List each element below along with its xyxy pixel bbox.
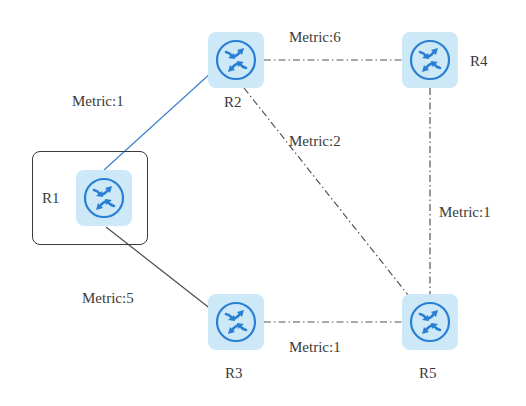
node-label-r1: R1	[42, 191, 60, 206]
metric-label-r1-r3: Metric:5	[82, 291, 134, 306]
node-label-r5: R5	[419, 366, 437, 381]
metric-label-r2-r4: Metric:6	[289, 30, 341, 45]
metric-label-r4-r5: Metric:1	[439, 205, 491, 220]
link-r2-r5	[244, 88, 408, 295]
router-icon[interactable]	[76, 170, 132, 226]
router-icon[interactable]	[402, 32, 458, 88]
router-icon[interactable]	[402, 294, 458, 350]
router-icon[interactable]	[208, 32, 264, 88]
metric-label-r1-r2: Metric:1	[72, 94, 124, 109]
metric-label-r3-r5: Metric:1	[289, 340, 341, 355]
node-label-r4: R4	[470, 54, 488, 69]
node-label-r2: R2	[224, 95, 242, 110]
node-label-r3: R3	[225, 366, 243, 381]
metric-label-r2-r5: Metric:2	[289, 134, 341, 149]
router-icon[interactable]	[208, 294, 264, 350]
network-diagram: R1 R2 R3 R4 R5 Metric:1 Metric:5 Metric:…	[0, 0, 526, 406]
